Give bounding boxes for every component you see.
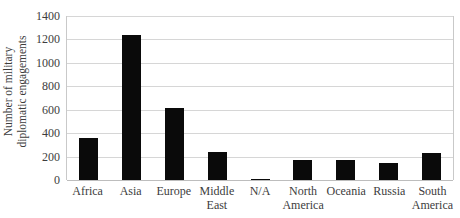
y-tick-label-800: 800 [42, 80, 60, 92]
gridline-0 [67, 180, 453, 181]
bar-slot-3 [196, 16, 239, 180]
bar-north-america[interactable] [293, 160, 312, 181]
y-tick-label-600: 600 [42, 104, 60, 116]
bar-slot-4 [239, 16, 282, 180]
x-tick-label-line: Oceania [325, 184, 368, 198]
x-tick-label-line: South [411, 184, 454, 198]
x-tick-label-europe: Europe [152, 182, 195, 198]
x-tick-label-asia: Asia [109, 182, 152, 198]
bar-south-america[interactable] [422, 153, 441, 180]
x-tick-label-russia: Russia [368, 182, 411, 198]
bars-container [67, 16, 453, 180]
x-tick-label-line: Middle [195, 184, 238, 198]
y-tick-label-1400: 1400 [36, 10, 60, 22]
y-axis-title: Number of military diplomatic engagement… [0, 0, 30, 182]
x-tick-label-line: Russia [368, 184, 411, 198]
y-tick-label-0: 0 [54, 174, 60, 186]
x-tick-label-north-america: NorthAmerica [282, 182, 325, 212]
bar-slot-1 [110, 16, 153, 180]
bar-slot-2 [153, 16, 196, 180]
x-axis-tick-labels: AfricaAsiaEuropeMiddleEastN/ANorthAmeric… [66, 182, 454, 218]
x-tick-label-line: East [195, 198, 238, 212]
bar-slot-5 [281, 16, 324, 180]
bar-europe[interactable] [165, 108, 184, 180]
bar-slot-6 [324, 16, 367, 180]
bar-middle-east[interactable] [208, 152, 227, 180]
y-tick-label-200: 200 [42, 151, 60, 163]
y-tick-label-400: 400 [42, 127, 60, 139]
bar-slot-8 [410, 16, 453, 180]
bar-asia[interactable] [122, 35, 141, 180]
bar-africa[interactable] [79, 138, 98, 180]
bar-russia[interactable] [379, 163, 398, 180]
y-axis-title-line-2: diplomatic engagements [15, 35, 29, 147]
plot-area [66, 16, 454, 180]
x-tick-label-line: N/A [238, 184, 281, 198]
y-tick-label-1200: 1200 [36, 33, 60, 45]
x-tick-label-line: Europe [152, 184, 195, 198]
x-tick-label-middle-east: MiddleEast [195, 182, 238, 212]
x-tick-label-africa: Africa [66, 182, 109, 198]
bar-slot-0 [67, 16, 110, 180]
x-tick-label-line: America [282, 198, 325, 212]
x-tick-label-south-america: SouthAmerica [411, 182, 454, 212]
bar-n-a[interactable] [251, 179, 270, 180]
bar-slot-7 [367, 16, 410, 180]
x-tick-label-line: North [282, 184, 325, 198]
bar-oceania[interactable] [336, 160, 355, 181]
bar-chart: Number of military diplomatic engagement… [0, 0, 460, 218]
x-tick-label-line: America [411, 198, 454, 212]
y-axis-tick-labels: 0200400600800100012001400 [28, 0, 64, 182]
x-tick-label-line: Africa [66, 184, 109, 198]
y-axis-title-line-1: Number of military [2, 35, 16, 147]
x-tick-label-n-a: N/A [238, 182, 281, 198]
x-tick-label-oceania: Oceania [325, 182, 368, 198]
x-tick-label-line: Asia [109, 184, 152, 198]
y-tick-label-1000: 1000 [36, 57, 60, 69]
